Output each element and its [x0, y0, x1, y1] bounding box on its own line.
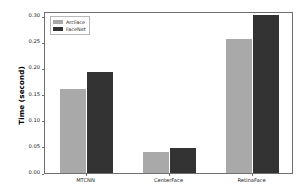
plot-area — [44, 12, 293, 174]
legend-item: FaceNet — [53, 26, 86, 32]
bar-chart-figure: Time (second) 0.000.050.100.150.200.250.… — [0, 0, 305, 191]
chart-legend: ArcFaceFaceNet — [50, 16, 90, 35]
y-tick-label: 0.15 — [28, 91, 40, 97]
x-tick: MTCNN — [41, 174, 131, 188]
y-tick-label: 0.30 — [28, 12, 40, 18]
legend-swatch — [53, 20, 63, 25]
bar — [143, 152, 169, 173]
y-tick-label: 0.20 — [28, 64, 40, 70]
y-tick-label: 0.25 — [28, 38, 40, 44]
x-tick-label: RetinaFace — [207, 177, 297, 183]
legend-swatch — [53, 27, 63, 32]
bar — [226, 39, 252, 173]
bar — [253, 15, 279, 173]
y-tick-label: 0.00 — [28, 169, 40, 175]
x-tick-label: CenterFace — [124, 177, 214, 183]
x-tick: RetinaFace — [207, 174, 297, 188]
legend-label: ArcFace — [66, 19, 85, 25]
x-tick: CenterFace — [124, 174, 214, 188]
x-tick-label: MTCNN — [41, 177, 131, 183]
bar — [170, 148, 196, 173]
bar — [60, 89, 86, 173]
y-tick-label: 0.10 — [28, 117, 40, 123]
y-axis-title: Time (second) — [14, 0, 28, 191]
legend-item: ArcFace — [53, 19, 86, 25]
bar — [87, 72, 113, 173]
y-tick-label: 0.05 — [28, 143, 40, 149]
legend-label: FaceNet — [66, 26, 86, 32]
